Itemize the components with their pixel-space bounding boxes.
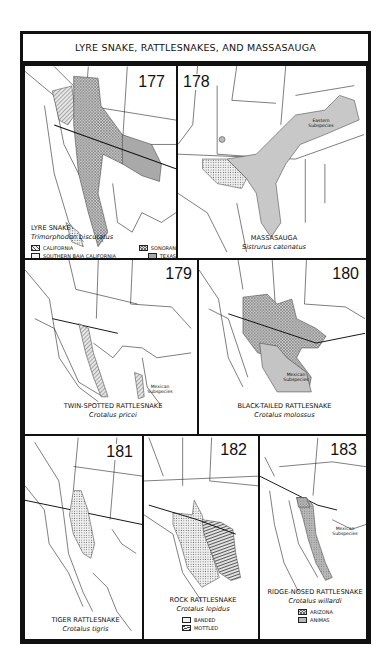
legend-label: CALIFORNIA [43,244,73,252]
common-name: RIDGE-NOSED RATTLESNAKE [260,588,368,597]
legend-label: ARIZONA [310,608,333,616]
page-title: LYRE SNAKE, RATTLESNAKES, AND MASSASAUGA [23,34,368,64]
legend-item: SONORAN [139,244,176,252]
legend-item: MOTTLED [182,624,218,632]
scientific-name: Crotalus willardi [260,597,368,606]
common-name: ROCK RATTLESNAKE [144,596,260,605]
species-caption: RIDGE-NOSED RATTLESNAKE Crotalus willard… [260,588,368,606]
map-number: 177 [137,74,166,90]
common-name: TIGER RATTLESNAKE [25,616,144,625]
map-panel-182: 182 ROCK RATTLESNAKE Crotalus lepidus BA… [142,434,260,641]
legend-label: BANDED [194,616,215,624]
species-caption: TWIN-SPOTTED RATTLESNAKE Crotalus pricei [25,402,199,420]
legend-label: MOTTLED [194,624,218,632]
crosshatch-swatch-icon [298,609,307,615]
scientific-name: Crotalus molossus [199,411,368,420]
crosshatch-swatch-icon [139,245,148,251]
gray-dots-swatch-icon [298,617,307,623]
legend: ARIZONA ANIMAS [298,608,333,624]
legend-item: BANDED [182,616,218,624]
species-caption: ROCK RATTLESNAKE Crotalus lepidus [144,596,260,614]
subspecies-note: Mexican Subspecies [330,526,360,536]
scientific-name: Crotalus lepidus [144,605,260,614]
scientific-name: Sistrurus catenatus [178,243,368,252]
common-name: LYRE SNAKE [31,224,113,233]
map-number: 179 [164,266,193,282]
map-number: 180 [331,266,360,282]
subspecies-note: Mexican Subspecies [281,372,311,382]
map-number: 182 [219,442,248,458]
scientific-name: Crotalus pricei [25,411,199,420]
horizontal-hatch-swatch-icon [182,625,191,631]
map-number: 178 [182,74,211,90]
map-panel-177: 177 LYRE SNAKE Trimorphodon biscutatus C… [23,64,178,260]
legend-item: CALIFORNIA [31,244,73,252]
common-name: BLACK-TAILED RATTLESNAKE [199,402,368,411]
massasauga-range-map [178,66,366,258]
legend: BANDED MOTTLED [182,616,218,632]
subspecies-note: Mexican Subspecies [145,384,175,394]
scientific-name: Trimorphodon biscutatus [31,233,113,242]
species-caption: LYRE SNAKE Trimorphodon biscutatus [31,224,113,242]
legend-label: ANIMAS [310,616,330,624]
species-caption: TIGER RATTLESNAKE Crotalus tigris [25,616,144,634]
map-panel-181: 181 TIGER RATTLESNAKE Crotalus tigris [23,434,144,641]
map-number: 181 [105,444,134,460]
tiger-rattlesnake-range-map [25,436,142,639]
map-panel-178: 178 Eastern Subspecies MASSASAUGA Sistru… [176,64,368,260]
species-caption: BLACK-TAILED RATTLESNAKE Crotalus moloss… [199,402,368,420]
scientific-name: Crotalus tigris [25,625,144,634]
legend-item: ANIMAS [298,616,333,624]
light-dots-swatch-icon [182,617,191,623]
map-plate-frame: LYRE SNAKE, RATTLESNAKES, AND MASSASAUGA… [20,31,371,644]
map-number: 183 [329,442,358,458]
map-panel-183: 183 Mexican Subspecies RIDGE-NOSED RATTL… [258,434,368,641]
common-name: MASSASAUGA [178,234,368,243]
legend-label: SONORAN [151,244,176,252]
map-panel-179: 179 Mexican Subspecies TWIN-SPOTTED RATT… [23,258,199,436]
legend-item: ARIZONA [298,608,333,616]
subspecies-note: Eastern Subspecies [306,118,336,128]
map-panel-180: 180 Mexican Subspecies BLACK-TAILED RATT… [197,258,368,436]
diagonal-hatch-swatch-icon [31,245,40,251]
species-caption: MASSASAUGA Sistrurus catenatus [178,234,368,252]
common-name: TWIN-SPOTTED RATTLESNAKE [25,402,199,411]
